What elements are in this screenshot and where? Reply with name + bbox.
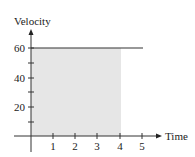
x-tick-4: 4 xyxy=(117,140,123,152)
x-tick-3: 3 xyxy=(94,140,100,152)
y-tick-20: 20 xyxy=(14,101,26,113)
x-tick-1: 1 xyxy=(50,140,56,152)
shaded-area xyxy=(31,48,121,136)
x-tick-2: 2 xyxy=(72,140,78,152)
x-axis-arrow-icon xyxy=(156,134,162,139)
x-tick-5: 5 xyxy=(139,140,145,152)
y-tick-60: 60 xyxy=(14,42,26,54)
x-axis-label: Time xyxy=(165,130,188,142)
y-tick-40: 40 xyxy=(14,72,26,84)
y-axis-label: Velocity xyxy=(14,15,51,27)
y-axis-arrow-icon xyxy=(29,29,34,35)
velocity-time-chart: Velocity Time 60 40 20 1 2 3 4 5 xyxy=(0,0,195,157)
